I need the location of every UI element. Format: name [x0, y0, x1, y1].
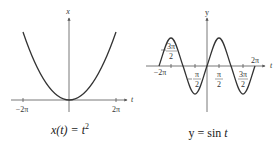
right-y-axis-label: y: [205, 8, 209, 17]
svg-text:3π: 3π: [239, 70, 247, 79]
left-caption-sup: 2: [85, 122, 89, 131]
parabola-curve: [23, 32, 116, 100]
left-caption-main: x(t) = t: [50, 123, 86, 137]
figure: x t −2π 2π x(t) = t2 y t −2π 2π 3π 2: [0, 0, 276, 145]
svg-text:2: 2: [241, 80, 245, 89]
svg-text:2: 2: [217, 80, 221, 89]
right-tick-label-pos-pi-2: π 2: [215, 70, 223, 89]
right-caption-var: t: [224, 126, 228, 140]
svg-text:π: π: [217, 70, 221, 79]
right-tick-label-pos-3pi-2: 3π 2: [238, 70, 248, 89]
left-t-axis-label: t: [131, 95, 134, 104]
right-caption: y = sin t: [188, 126, 228, 140]
right-tick-label-pos-2pi: 2π: [251, 56, 259, 65]
svg-text:2: 2: [195, 80, 199, 89]
right-tick-label-neg-2pi: −2π: [154, 68, 167, 77]
left-tick-label-neg-2pi: −2π: [16, 105, 29, 114]
left-caption: x(t) = t2: [50, 122, 89, 137]
sine-chart: y t −2π 2π 3π 2 π 2 π 2 3π 2: [146, 8, 273, 140]
left-tick-label-pos-2pi: 2π: [112, 105, 120, 114]
svg-text:2: 2: [169, 52, 173, 61]
parabola-chart: x t −2π 2π x(t) = t2: [11, 7, 134, 137]
svg-text:π: π: [195, 70, 199, 79]
svg-text:3π: 3π: [167, 42, 175, 51]
left-y-axis-label: x: [65, 7, 70, 16]
right-caption-main: y = sin: [188, 126, 224, 140]
right-t-axis-label: t: [270, 61, 273, 70]
